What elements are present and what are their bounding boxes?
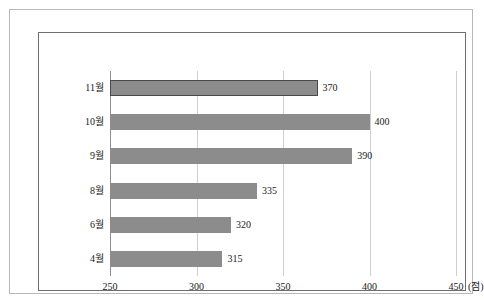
bar-row: 9월390	[110, 139, 456, 173]
bar	[110, 251, 222, 267]
category-label: 10월	[85, 117, 104, 127]
bar-value-label: 320	[236, 220, 251, 230]
gridline	[456, 71, 457, 276]
bar-value-label: 335	[262, 186, 277, 196]
inner-border-frame: 11월37010월4009월3908월3356월3204월315 2503003…	[38, 32, 466, 291]
x-axis-tick-label: 400	[362, 282, 377, 292]
x-axis-tick-label: 300	[189, 282, 204, 292]
x-axis-tick-label: 450	[449, 282, 464, 292]
bar	[110, 183, 257, 199]
bar-row: 8월335	[110, 174, 456, 208]
bar-row: 6월320	[110, 208, 456, 242]
bar	[110, 217, 231, 233]
x-axis-tick-label: 250	[103, 282, 118, 292]
bar-value-label: 400	[375, 117, 390, 127]
category-label: 11월	[85, 83, 104, 93]
category-label: 9월	[90, 151, 104, 161]
bar-row: 11월370	[110, 71, 456, 105]
outer-border-frame: 11월37010월4009월3908월3356월3204월315 2503003…	[9, 9, 473, 294]
bar	[110, 80, 318, 96]
bar	[110, 114, 370, 130]
category-label: 6월	[90, 220, 104, 230]
x-axis-tick-label: 350	[276, 282, 291, 292]
category-label: 8월	[90, 186, 104, 196]
plot-area: 11월37010월4009월3908월3356월3204월315	[110, 71, 456, 276]
bar-row: 4월315	[110, 242, 456, 276]
bar-value-label: 370	[323, 83, 338, 93]
bar-value-label: 390	[357, 151, 372, 161]
x-axis-unit-label: (점)	[468, 282, 484, 292]
bar-row: 10월400	[110, 105, 456, 139]
bar-chart: 11월37010월4009월3908월3356월3204월315 2503003…	[39, 33, 465, 290]
category-label: 4월	[90, 254, 104, 264]
bar-value-label: 315	[227, 254, 242, 264]
bar	[110, 148, 352, 164]
